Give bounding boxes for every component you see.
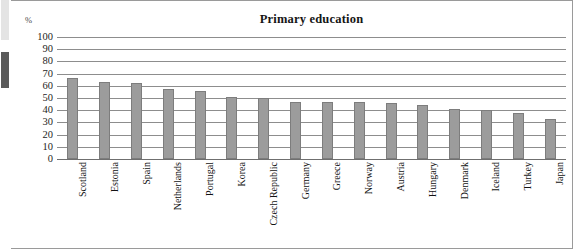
y-axis-tick-label: 40 (13, 105, 53, 115)
x-axis-tick-label: Germany (300, 162, 311, 199)
x-axis-tick-label: Austria (395, 162, 406, 191)
x-axis-tick-label: Turkey (522, 162, 533, 191)
y-axis-tick-label: 30 (13, 117, 53, 127)
x-axis-tick-label: Greece (331, 162, 342, 190)
y-axis-unit-label: % (25, 15, 32, 25)
x-axis-baseline (57, 159, 566, 160)
y-axis-tick-label: 10 (13, 142, 53, 152)
x-axis-tick-label: Hungary (427, 162, 438, 197)
y-axis-tick-label: 70 (13, 69, 53, 79)
y-axis-tick-label: 50 (13, 93, 53, 103)
y-axis-tick-label: 90 (13, 44, 53, 54)
x-axis-tick-label: Korea (236, 162, 247, 186)
x-axis-tick-label: Spain (141, 162, 152, 185)
x-axis-tick-label: Estonia (109, 162, 120, 192)
x-axis-labels: ScotlandEstoniaSpainNetherlandsPortugalK… (57, 37, 566, 159)
x-axis-tick-label: Portugal (204, 162, 215, 196)
margin-block-dark (1, 52, 9, 88)
y-axis-tick-label: 80 (13, 56, 53, 66)
x-axis-tick-label: Scotland (77, 162, 88, 197)
x-axis-tick-label: Japan (554, 162, 565, 185)
margin-block-light (1, 0, 9, 40)
y-axis-tick-label: 60 (13, 81, 53, 91)
y-axis-tick-label: 0 (13, 154, 53, 164)
y-axis-tick-label: 100 (13, 32, 53, 42)
x-axis-tick-label: Czech Republic (268, 162, 279, 226)
y-axis-tick-label: 20 (13, 130, 53, 140)
x-axis-tick-label: Denmark (459, 162, 470, 199)
chart-title: Primary education (11, 12, 572, 27)
x-axis-tick-label: Iceland (490, 162, 501, 191)
x-axis-tick-label: Netherlands (172, 162, 183, 210)
x-axis-tick-label: Norway (363, 162, 374, 194)
chart-container: Primary education % 10090807060504030201… (11, 0, 573, 249)
